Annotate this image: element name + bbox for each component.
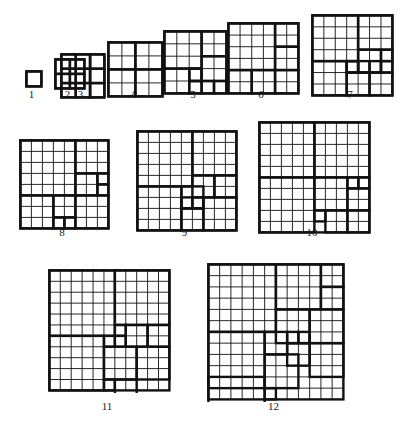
- dissection-subsquare: [381, 50, 392, 61]
- squared-square-figure-10: [257, 120, 372, 235]
- dissection-subsquare: [61, 69, 75, 83]
- dissection-canvas: [24, 69, 44, 89]
- dissection-subsquare: [381, 61, 392, 72]
- outer-border: [137, 131, 236, 230]
- figure-caption-3: 3: [59, 88, 102, 100]
- figure-caption-11: 11: [47, 400, 167, 412]
- dissection-subsquare: [347, 177, 358, 188]
- dissection-subsquare: [20, 195, 53, 228]
- dissection-subsquare: [61, 54, 75, 68]
- dissection-canvas: [257, 120, 372, 235]
- dissection-subsquare: [314, 122, 369, 177]
- dissection-subsquare: [347, 61, 358, 72]
- figure-caption-5: 5: [162, 88, 224, 100]
- dissection-subsquare: [370, 61, 381, 72]
- dissection-canvas: [47, 268, 172, 393]
- dissection-subsquare: [347, 61, 358, 72]
- dissection-canvas: [135, 129, 239, 233]
- squared-square-figure-5: [162, 29, 229, 96]
- dissection-subsquare: [265, 354, 299, 388]
- dissection-subsquare: [310, 343, 344, 377]
- dissection-subsquare: [97, 173, 108, 184]
- dissection-subsquare: [314, 210, 325, 221]
- squared-square-figure-7: [310, 13, 395, 98]
- squared-square-figure-6: [226, 21, 301, 96]
- dissection-subsquare: [115, 336, 126, 347]
- dissection-subsquare: [137, 347, 170, 380]
- outer-border: [26, 71, 41, 86]
- figure-caption-4: 4: [106, 88, 160, 100]
- dissection-subsquare: [358, 177, 369, 188]
- dissection-subsquare: [137, 131, 192, 186]
- dissection-subsquare: [265, 388, 276, 399]
- dissection-subsquare: [259, 177, 314, 232]
- dissection-subsquare: [181, 197, 192, 208]
- squared-square-figure-1: [24, 69, 44, 89]
- dissection-subsquare: [358, 61, 369, 72]
- dissection-subsquare: [314, 177, 347, 210]
- dissection-subsquare: [49, 336, 104, 391]
- dissection-subsquare: [90, 69, 104, 83]
- figure-caption-12: 12: [206, 400, 341, 412]
- dissection-subsquare: [76, 69, 90, 83]
- figure-caption-8: 8: [18, 226, 106, 238]
- dissection-subsquare: [298, 332, 309, 343]
- dissection-subsquare: [104, 379, 115, 390]
- figure-caption-6: 6: [226, 88, 296, 100]
- dissection-subsquare: [75, 140, 108, 173]
- dissection-subsquare: [115, 270, 170, 325]
- dissection-subsquare: [104, 336, 115, 347]
- dissection-subsquare: [76, 54, 90, 68]
- dissection-subsquare: [192, 197, 203, 208]
- dissection-subsquare: [75, 195, 108, 228]
- dissection-subsquare: [90, 54, 104, 68]
- dissection-subsquare: [26, 71, 41, 86]
- dissection-subsquare: [310, 309, 344, 343]
- figure-caption-7: 7: [310, 88, 390, 100]
- dissection-canvas: [162, 29, 229, 96]
- dissection-subsquare: [115, 325, 126, 336]
- figure-board: 123456789101112: [0, 0, 401, 426]
- dissection-canvas: [206, 262, 346, 402]
- outer-border: [164, 31, 226, 93]
- dissection-subsquare: [97, 184, 108, 195]
- dissection-canvas: [18, 138, 111, 231]
- dissection-subsquare: [208, 332, 264, 388]
- figure-caption-9: 9: [135, 226, 234, 238]
- figure-caption-10: 10: [257, 226, 367, 238]
- dissection-canvas: [226, 21, 301, 96]
- dissection-subsquare: [20, 140, 75, 195]
- outer-border: [49, 270, 169, 390]
- dissection-subsquare: [189, 69, 201, 81]
- squared-square-figure-12: [206, 262, 346, 402]
- dissection-subsquare: [104, 347, 137, 380]
- squared-square-figure-8: [18, 138, 111, 231]
- dissection-canvas: [310, 13, 395, 98]
- squared-square-figure-9: [135, 129, 239, 233]
- dissection-subsquare: [358, 15, 392, 49]
- dissection-subsquare: [189, 69, 201, 81]
- dissection-subsquare: [287, 332, 298, 343]
- dissection-subsquare: [164, 31, 201, 68]
- figure-caption-1: 1: [24, 88, 39, 100]
- dissection-subsquare: [259, 122, 314, 177]
- dissection-subsquare: [276, 309, 310, 343]
- squared-square-figure-11: [47, 268, 172, 393]
